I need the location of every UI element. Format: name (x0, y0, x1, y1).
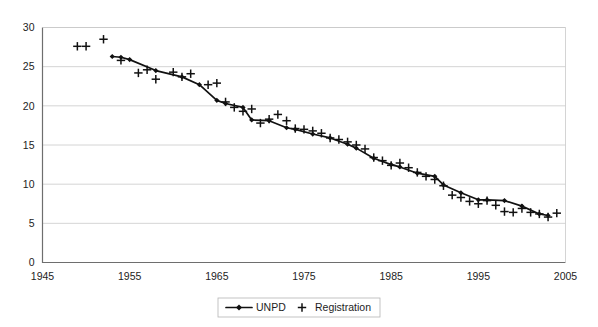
y-tick-label-20: 20 (23, 100, 35, 112)
y-tick-label-0: 0 (29, 256, 35, 268)
y-tick-label-10: 10 (23, 178, 35, 190)
y-tick-label-5: 5 (29, 217, 35, 229)
chart-legend: UNPDRegistration (218, 298, 380, 317)
x-tick-label-1995: 1995 (467, 270, 491, 282)
x-tick-label-2005: 2005 (554, 270, 578, 282)
legend-label-unpd: UNPD (256, 301, 286, 313)
y-tick-label-30: 30 (23, 21, 35, 33)
x-tick-label-1945: 1945 (31, 270, 55, 282)
x-tick-label-1975: 1975 (292, 270, 316, 282)
legend-label-registration: Registration (315, 301, 371, 313)
y-tick-label-15: 15 (23, 139, 35, 151)
x-tick-label-1985: 1985 (379, 270, 403, 282)
x-tick-label-1965: 1965 (205, 270, 229, 282)
chart-container: 051015202530 194519551965197519851995200… (0, 0, 598, 327)
y-tick-label-25: 25 (23, 60, 35, 72)
x-tick-label-1955: 1955 (118, 270, 142, 282)
line-chart: 051015202530 194519551965197519851995200… (0, 0, 598, 327)
